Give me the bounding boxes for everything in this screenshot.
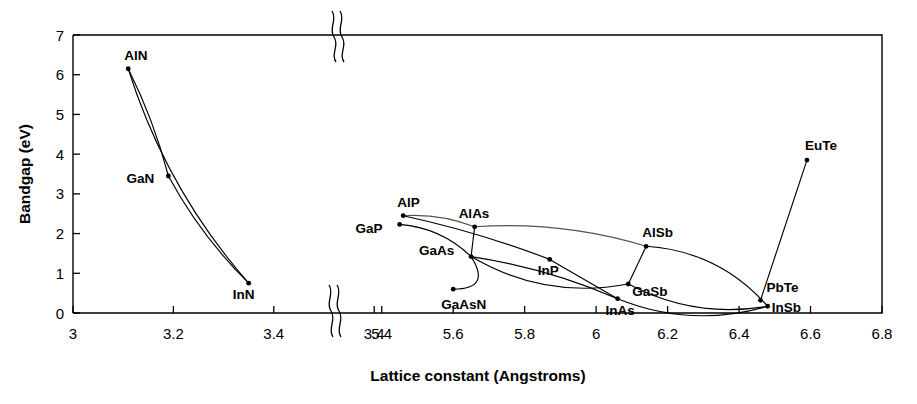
data-point-alsb: [644, 244, 649, 249]
data-point-gap: [397, 222, 402, 227]
bandgap-lattice-constant-chart: AlNGaNInNAlPGaPAlAsGaAsGaAsNInPInAsAlSbG…: [0, 0, 917, 404]
x-tick-label: 3: [69, 325, 77, 342]
alloy-curve: [475, 226, 647, 247]
data-point-aln: [126, 66, 131, 71]
label-inp: InP: [538, 263, 559, 278]
x-tick-label: 6.2: [657, 325, 678, 342]
alloy-connection-curves: [128, 69, 807, 316]
x-tick-label: 6.6: [800, 325, 821, 342]
data-point-eute: [805, 158, 810, 163]
label-aln: AlN: [124, 48, 147, 63]
data-point-inas: [615, 296, 620, 301]
y-axis-ticks: [73, 35, 80, 313]
label-gap: GaP: [356, 221, 383, 236]
data-point-alp: [401, 213, 406, 218]
data-point-gasb: [626, 282, 631, 287]
label-gaasn: GaAsN: [441, 297, 486, 312]
data-point-alas: [472, 224, 477, 229]
label-pbte: PbTe: [767, 280, 799, 295]
label-gaas: GaAs: [419, 243, 454, 258]
chart-canvas: AlNGaNInNAlPGaPAlAsGaAsGaAsNInPInAsAlSbG…: [0, 0, 917, 404]
data-point-gaasn: [451, 287, 456, 292]
alloy-curve: [453, 257, 478, 290]
alloy-curve: [761, 160, 807, 300]
y-tick-label: 7: [56, 27, 64, 44]
data-point-inp: [547, 257, 552, 262]
alloy-curve: [168, 176, 248, 283]
x-axis-title: Lattice constant (Angstroms): [370, 367, 585, 384]
y-axis-tick-labels: 01234567: [56, 27, 64, 322]
data-point-inn: [246, 281, 251, 286]
label-alp: AlP: [397, 195, 420, 210]
axis-break-marks: [329, 11, 344, 337]
x-axis-tick-labels: 33.23.43.45.45.65.866.26.46.66.8: [69, 325, 893, 342]
alloy-curve: [471, 227, 475, 257]
data-point-gaas: [469, 254, 474, 259]
label-gasb: GaSb: [632, 284, 667, 299]
label-eute: EuTe: [805, 138, 837, 153]
x-tick-label: 6: [592, 325, 600, 342]
data-points: [126, 66, 810, 308]
x-tick-label: 5.4: [371, 325, 392, 342]
label-alas: AlAs: [459, 206, 490, 221]
label-alsb: AlSb: [642, 225, 673, 240]
x-tick-label: 5.6: [443, 325, 464, 342]
y-tick-label: 0: [56, 305, 64, 322]
y-tick-label: 4: [56, 146, 64, 163]
data-point-insb: [765, 304, 770, 309]
data-point-gan: [166, 174, 171, 179]
label-insb: InSb: [772, 300, 801, 315]
label-gan: GaN: [126, 171, 154, 186]
label-inn: InN: [233, 287, 255, 302]
x-tick-label: 3.4: [263, 325, 284, 342]
y-tick-label: 6: [56, 66, 64, 83]
label-inas: InAs: [606, 303, 635, 318]
alloy-curve: [550, 259, 618, 298]
y-tick-label: 3: [56, 185, 64, 202]
data-point-labels: AlNGaNInNAlPGaPAlAsGaAsGaAsNInPInAsAlSbG…: [124, 48, 837, 318]
x-tick-label: 5.8: [514, 325, 535, 342]
y-tick-label: 5: [56, 106, 64, 123]
x-tick-label: 3.2: [163, 325, 184, 342]
data-point-pbte: [758, 298, 763, 303]
x-tick-label: 6.8: [872, 325, 893, 342]
y-axis-title: Bandgap (eV): [16, 124, 33, 224]
x-tick-label: 6.4: [729, 325, 750, 342]
y-tick-label: 2: [56, 225, 64, 242]
y-tick-label: 1: [56, 265, 64, 282]
alloy-curve: [628, 246, 646, 284]
